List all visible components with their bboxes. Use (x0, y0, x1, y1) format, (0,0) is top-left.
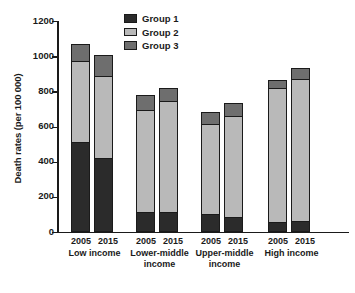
bar-1-2015[interactable] (159, 88, 178, 232)
bar-segment-group-3 (160, 89, 177, 102)
x-year-label: 2005 (136, 236, 156, 248)
bar-segment-group-2 (269, 89, 286, 223)
y-tick-label: 800 (38, 85, 54, 97)
legend-item-label: Group 3 (142, 40, 178, 51)
bar-segment-group-3 (72, 45, 89, 62)
bar-segment-group-1 (225, 218, 242, 231)
y-tick-label: 1200 (33, 15, 54, 27)
legend-item-2[interactable]: Group 2 (124, 27, 178, 38)
x-year-label: 2005 (71, 236, 91, 248)
legend-item-3[interactable]: Group 3 (124, 40, 178, 51)
bar-0-2005[interactable] (71, 44, 90, 232)
bar-3-2015[interactable] (291, 68, 310, 232)
x-year-label: 2015 (98, 236, 118, 248)
bar-2-2005[interactable] (201, 112, 220, 232)
legend-item-label: Group 1 (142, 13, 178, 24)
legend-item-label: Group 2 (142, 27, 178, 38)
bar-0-2015[interactable] (94, 55, 113, 232)
y-tick-label: 600 (38, 120, 54, 132)
bar-segment-group-3 (269, 81, 286, 89)
bar-segment-group-1 (202, 215, 219, 231)
x-year-label: 2015 (228, 236, 248, 248)
bar-segment-group-3 (292, 69, 309, 80)
x-year-label: 2015 (295, 236, 315, 248)
x-year-label: 2005 (268, 236, 288, 248)
bar-segment-group-2 (202, 125, 219, 215)
x-group-years: 20052015 (249, 236, 335, 248)
bar-2-2015[interactable] (224, 103, 243, 232)
bar-segment-group-1 (95, 159, 112, 231)
bar-segment-group-3 (202, 113, 219, 125)
y-axis-title: Death rates (per 100 000) (12, 49, 23, 209)
x-category-label: High income (249, 248, 335, 260)
legend-swatch-icon (124, 28, 137, 37)
x-group-label-3: 20052015High income (249, 236, 335, 259)
bar-segment-group-3 (225, 104, 242, 117)
bar-segment-group-1 (269, 223, 286, 231)
bar-segment-group-1 (160, 213, 177, 231)
legend-item-1[interactable]: Group 1 (124, 13, 178, 24)
bar-segment-group-2 (72, 62, 89, 144)
bar-segment-group-2 (160, 102, 177, 213)
bar-segment-group-2 (225, 117, 242, 218)
x-year-label: 2015 (163, 236, 183, 248)
bar-1-2005[interactable] (136, 95, 155, 233)
x-category-label: income (182, 259, 268, 271)
bar-segment-group-1 (72, 143, 89, 231)
bar-segment-group-3 (137, 96, 154, 112)
x-year-label: 2005 (201, 236, 221, 248)
legend-swatch-icon (124, 14, 137, 23)
bar-segment-group-2 (95, 77, 112, 160)
bar-segment-group-1 (137, 213, 154, 231)
y-tick-label: 400 (38, 155, 54, 167)
bar-segment-group-2 (137, 111, 154, 213)
plot-area: 020040060080010001200 (57, 21, 347, 232)
chart-legend: Group 1Group 2Group 3 (124, 13, 178, 51)
legend-swatch-icon (124, 41, 137, 50)
bar-segment-group-1 (292, 222, 309, 231)
bar-segment-group-3 (95, 56, 112, 76)
y-tick-label: 200 (38, 190, 54, 202)
bar-3-2005[interactable] (268, 80, 287, 232)
bar-segment-group-2 (292, 80, 309, 222)
stacked-bar-chart: Death rates (per 100 000) 02004006008001… (0, 0, 355, 293)
y-tick-label: 1000 (33, 50, 54, 62)
